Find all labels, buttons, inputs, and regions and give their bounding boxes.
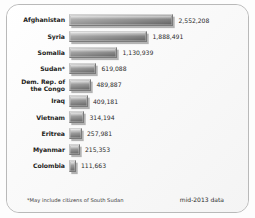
bar-area: 619,088: [69, 61, 248, 77]
bar-value-label: 111,663: [81, 162, 106, 169]
bar-area: 314,194: [69, 109, 248, 125]
bar-wrap: 1,130,939: [69, 47, 153, 59]
bar-value-label: 257,981: [87, 130, 112, 137]
bar-label-line2: the Congo: [30, 85, 65, 92]
bar-wrap: 619,088: [69, 63, 127, 75]
bar-label: Vietnam: [7, 114, 69, 121]
bar-label: Iraq: [7, 97, 69, 104]
bar: [69, 47, 117, 59]
bar-area: 257,981: [69, 125, 248, 141]
bar-wrap: 215,353: [69, 144, 110, 156]
footnote-data-date: mid-2013 data: [180, 196, 224, 203]
bar: [69, 144, 80, 156]
footnote-south-sudan: *May include citizens of South Sudan: [27, 197, 123, 203]
bar-wrap: 111,663: [69, 160, 106, 172]
bar-wrap: 409,181: [69, 95, 118, 107]
bar-row: Eritrea 257,981: [7, 125, 248, 141]
bar-row: Iraq 409,181: [7, 93, 248, 109]
bar-wrap: 257,981: [69, 128, 112, 140]
footnotes: *May include citizens of South Sudan mid…: [7, 196, 248, 203]
bar: [69, 79, 91, 91]
bar-value-label: 409,181: [93, 98, 118, 105]
bar-label: Afghanistan: [7, 16, 69, 23]
bar-area: 111,663: [69, 158, 248, 174]
bar: [69, 63, 96, 75]
bar-value-label: 215,353: [85, 146, 110, 153]
bar: [69, 14, 173, 26]
bar-value-label: 1,888,491: [153, 33, 184, 40]
bar-area: 1,130,939: [69, 44, 248, 60]
bar-wrap: 489,887: [69, 79, 122, 91]
bar-row: Sudan* 619,088: [7, 61, 248, 77]
bar-row: Syria 1,888,491: [7, 28, 248, 44]
bar-label: Syria: [7, 33, 69, 40]
bar-value-label: 619,088: [102, 65, 127, 72]
bar-label: Dem. Rep. ofthe Congo: [7, 78, 69, 92]
bar-label: Sudan*: [7, 65, 69, 72]
bar-row: Vietnam 314,194: [7, 109, 248, 125]
bar-chart-plot: Afghanistan 2,552,208 Syria 1,888,491: [7, 12, 248, 212]
bar-wrap: 314,194: [69, 111, 115, 123]
bar: [69, 111, 84, 123]
chart-figure: Afghanistan 2,552,208 Syria 1,888,491: [0, 0, 255, 218]
bar-area: 2,552,208: [69, 12, 248, 28]
bar-value-label: 1,130,939: [123, 49, 154, 56]
bar-row: Afghanistan 2,552,208: [7, 12, 248, 28]
bar-value-label: 314,194: [90, 114, 115, 121]
bar-label-line1: Dem. Rep. of: [21, 78, 65, 85]
bar-label: Myanmar: [7, 146, 69, 153]
bar: [69, 95, 88, 107]
chart-frame: Afghanistan 2,552,208 Syria 1,888,491: [6, 4, 249, 213]
bar-value-label: 2,552,208: [179, 17, 210, 24]
bar-area: 1,888,491: [69, 28, 248, 44]
bar-area: 409,181: [69, 93, 248, 109]
bar-row: Myanmar 215,353: [7, 142, 248, 158]
bar-label: Colombia: [7, 162, 69, 169]
bar-row: Somalia 1,130,939: [7, 44, 248, 60]
bar-wrap: 2,552,208: [69, 14, 209, 26]
bar: [69, 128, 82, 140]
bar-value-label: 489,887: [97, 81, 122, 88]
bar-area: 489,887: [69, 77, 248, 93]
bar-row: Colombia 111,663: [7, 158, 248, 174]
bar-row: Dem. Rep. ofthe Congo 489,887: [7, 77, 248, 93]
bar-wrap: 1,888,491: [69, 31, 183, 43]
bar-label: Somalia: [7, 49, 69, 56]
bar-label: Eritrea: [7, 130, 69, 137]
bar: [69, 31, 147, 43]
bar: [69, 160, 76, 172]
bar-area: 215,353: [69, 142, 248, 158]
